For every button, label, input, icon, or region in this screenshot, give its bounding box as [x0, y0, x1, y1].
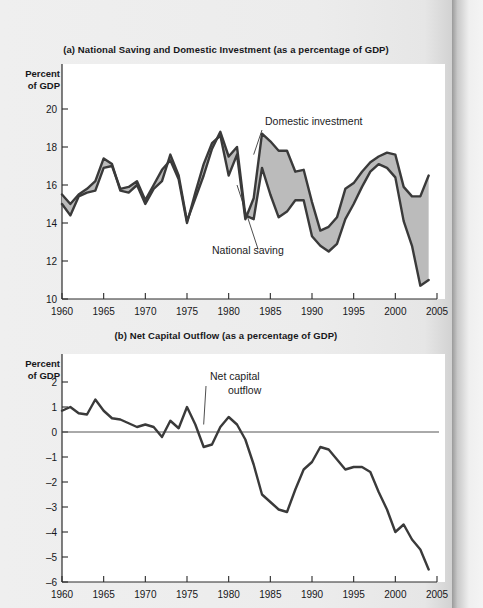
x-tick-label: 1980	[218, 306, 241, 317]
series-line-net-capital-outflow	[62, 400, 429, 570]
annotation-label: Net capital	[210, 370, 260, 382]
x-tick-label: 1970	[134, 589, 157, 600]
page-background: (a) National Saving and Domestic Investm…	[0, 0, 483, 608]
annotation-label: National saving	[212, 244, 284, 256]
y-tick-label: –4	[46, 527, 58, 538]
page-edge-shadow	[452, 0, 483, 608]
x-tick-label: 1985	[259, 589, 282, 600]
panel-b-axis-caption-line1: Percent	[2, 358, 60, 370]
series-line-national-saving	[62, 132, 429, 286]
y-tick-label: 12	[46, 256, 58, 267]
x-tick-label: 2000	[384, 589, 407, 600]
x-tick-label: 1990	[301, 589, 324, 600]
x-tick-label: 2005	[426, 306, 449, 317]
y-tick-label: –6	[46, 577, 58, 588]
panel-a-plot-area: 1012141618201960196519701975198019851990…	[62, 64, 445, 299]
x-tick-label: 1975	[176, 589, 199, 600]
x-tick-label: 1995	[343, 589, 366, 600]
y-tick-label: 0	[51, 427, 57, 438]
x-tick-label: 1995	[343, 306, 366, 317]
y-tick-label: 2	[51, 377, 57, 388]
y-tick-label: 18	[46, 142, 58, 153]
x-tick-label: 1965	[93, 306, 116, 317]
x-tick-label: 1970	[134, 306, 157, 317]
annotation-label: Domestic investment	[265, 115, 363, 127]
y-tick-label: 14	[46, 218, 58, 229]
panel-b-svg: 210–1–2–3–4–5–61960196519701975198019851…	[62, 354, 445, 582]
y-tick-label: 16	[46, 180, 58, 191]
annotation-label: outflow	[228, 384, 262, 396]
panel-b-title: (b) Net Capital Outflow (as a percentage…	[0, 330, 452, 341]
x-tick-label: 2000	[384, 306, 407, 317]
x-tick-label: 1980	[218, 589, 241, 600]
panel-a-axis-caption: Percent of GDP	[2, 68, 60, 91]
x-tick-label: 1960	[51, 306, 74, 317]
y-tick-label: –2	[46, 477, 58, 488]
y-tick-label: –1	[46, 452, 58, 463]
y-tick-label: –5	[46, 552, 58, 563]
y-tick-label: 1	[51, 402, 57, 413]
x-tick-label: 1975	[176, 306, 199, 317]
x-tick-label: 1960	[51, 589, 74, 600]
x-tick-label: 2005	[426, 589, 449, 600]
y-tick-label: 20	[46, 104, 58, 115]
x-tick-label: 1985	[259, 306, 282, 317]
panel-a-svg: 1012141618201960196519701975198019851990…	[62, 64, 445, 299]
panel-a-title: (a) National Saving and Domestic Investm…	[0, 44, 452, 55]
panel-b-plot-area: 210–1–2–3–4–5–61960196519701975198019851…	[62, 354, 445, 582]
panel-a-axis-caption-line1: Percent	[2, 68, 60, 80]
y-tick-label: –3	[46, 502, 58, 513]
y-tick-label: 10	[46, 294, 58, 305]
x-tick-label: 1990	[301, 306, 324, 317]
panel-a-axis-caption-line2: of GDP	[2, 80, 60, 92]
x-tick-label: 1965	[93, 589, 116, 600]
